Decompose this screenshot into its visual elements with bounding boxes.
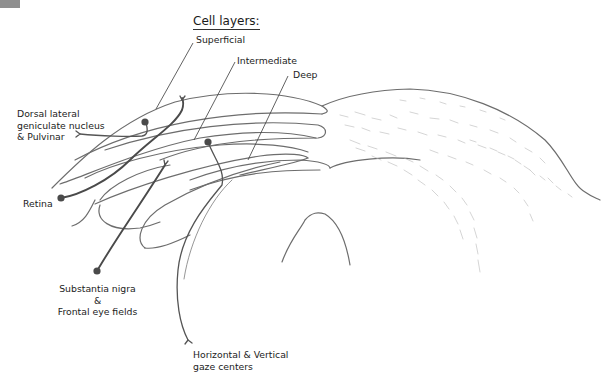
label-dlgn-line-2: geniculate nucleus (17, 120, 105, 132)
label-gaze-centers: Horizontal & Vertical gaze centers (193, 349, 288, 372)
label-gaze-line-1: Horizontal & Vertical (193, 349, 288, 361)
label-deep: Deep (293, 69, 318, 81)
label-sn-line-3: Frontal eye fields (55, 306, 140, 318)
label-dlgn-line-3: & Pulvinar (17, 131, 105, 143)
label-dlgn-line-1: Dorsal lateral (17, 108, 105, 120)
label-sn-line-2: & (55, 295, 140, 307)
fiber-texture (340, 98, 572, 272)
label-substantia-nigra-fef: Substantia nigra & Frontal eye fields (55, 283, 140, 318)
cell-layers-title: Cell layers: (193, 14, 260, 30)
brainstem-body (282, 89, 600, 265)
dlgn-cell-dot (141, 118, 148, 125)
substantia-nigra-dot (93, 267, 100, 274)
label-dlgn-pulvinar: Dorsal lateral geniculate nucleus & Pulv… (17, 108, 105, 143)
label-sn-line-1: Substantia nigra (55, 283, 140, 295)
superior-colliculus-diagram (0, 0, 615, 381)
gaze-output-fiber-end (185, 340, 192, 344)
leader-deep (248, 76, 288, 160)
label-superficial: Superficial (196, 34, 245, 46)
retina-dot (57, 194, 64, 201)
label-gaze-line-2: gaze centers (193, 361, 288, 373)
substantia-nigra-fiber (97, 165, 165, 271)
substantia-nigra-fiber-end (164, 160, 168, 165)
deep-layer-cell-dot (204, 138, 211, 145)
leader-intermediate (194, 62, 235, 140)
label-retina: Retina (23, 198, 53, 210)
label-intermediate: Intermediate (237, 55, 297, 67)
